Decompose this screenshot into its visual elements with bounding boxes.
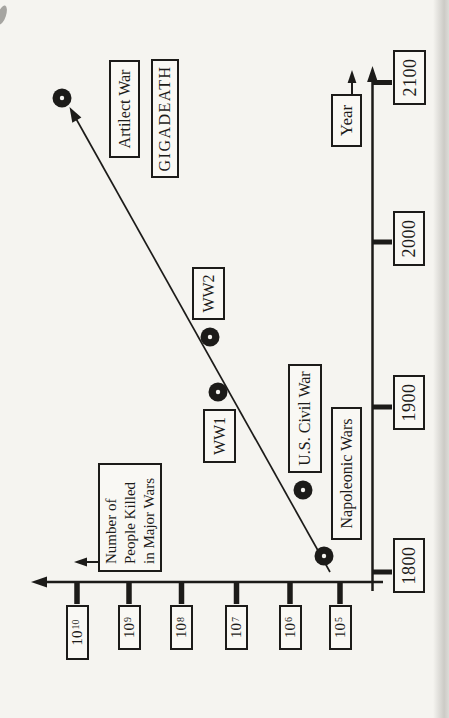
trend-arrowhead-icon	[65, 104, 81, 122]
y-axis-ticks	[77, 582, 340, 604]
label-ww1: WW1	[203, 409, 236, 463]
label-artilect-war: Artilect War	[109, 60, 140, 158]
y-tick-base: 10	[283, 623, 298, 638]
x-axis-ticks	[373, 83, 392, 573]
data-point-artilect-war	[53, 89, 72, 108]
y-axis-title-box: Number of People Killed in Major Wars	[98, 463, 162, 572]
y-tick-label-1e8: 108	[170, 605, 193, 650]
x-tick-label-1800: 1800	[393, 538, 425, 593]
x-axis	[367, 66, 378, 591]
x-axis-title-box: Year	[331, 94, 362, 147]
y-tick-label-1e7: 107	[225, 605, 248, 650]
x-title-arrow-icon	[348, 70, 357, 94]
y-title-arrow-icon	[74, 558, 98, 567]
label-us-civil-war: U.S. Civil War	[288, 364, 322, 473]
y-axis-arrowhead-icon	[31, 577, 47, 588]
y-tick-base: 10	[229, 623, 244, 638]
label-napoleonic-wars: Napoleonic Wars	[331, 407, 362, 540]
y-tick-label-1e10: 1010	[66, 605, 89, 660]
x-tick-label-2000: 2000	[393, 211, 425, 266]
y-axis-title-line: in Major Wars	[140, 478, 159, 564]
label-ww2: WW2	[192, 267, 225, 320]
data-point-us-civil-war	[294, 481, 313, 500]
y-tick-label-1e6: 106	[279, 605, 302, 650]
data-point-ww2	[201, 328, 220, 347]
x-tick-label-2100: 2100	[393, 50, 426, 105]
y-tick-base: 10	[122, 623, 137, 638]
data-point-napoleonic-wars	[315, 547, 334, 566]
data-point-ww1	[209, 383, 228, 402]
y-tick-base: 10	[174, 623, 189, 638]
y-axis-title-line: Number of	[102, 499, 121, 564]
label-gigadeath: GIGADEATH	[151, 59, 179, 178]
y-axis-title-line: People Killed	[121, 482, 140, 564]
y-tick-label-1e9: 109	[118, 605, 141, 650]
y-tick-base: 10	[333, 623, 348, 638]
scanned-figure-page: 1010 109 108 107 106 105 1800 1900 2000 …	[0, 0, 449, 718]
y-axis	[31, 577, 383, 588]
x-axis-arrowhead-icon	[367, 66, 378, 82]
war-deaths-chart: 1010 109 108 107 106 105 1800 1900 2000 …	[0, 0, 449, 718]
y-tick-label-1e5: 105	[329, 605, 352, 650]
y-tick-base: 10	[70, 631, 85, 646]
x-tick-label-1900: 1900	[393, 375, 425, 430]
